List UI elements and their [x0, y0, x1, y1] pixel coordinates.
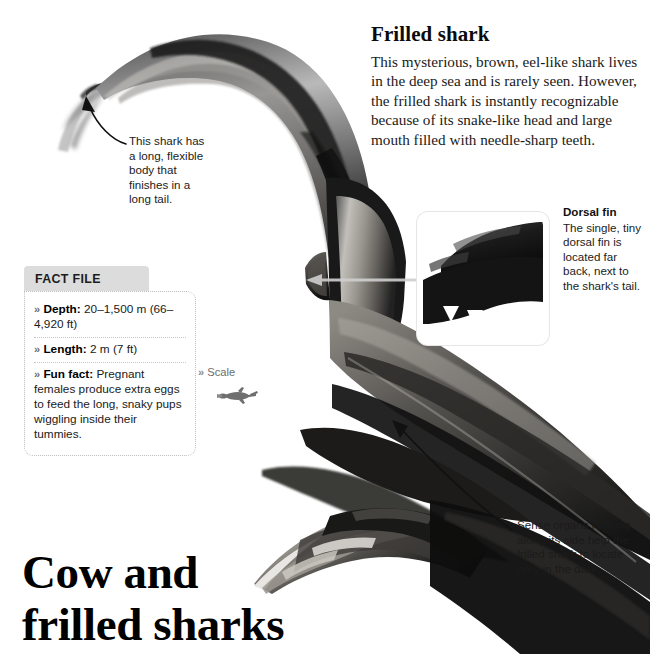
- fact-file-panel: FACT FILE » Depth: 20–1,500 m (66–4,920 …: [24, 266, 196, 456]
- intro-paragraph: This mysterious, brown, eel-like shark l…: [371, 52, 643, 149]
- fact-row-fun-fact-label: Fun fact:: [43, 367, 93, 381]
- fact-file-body: » Depth: 20–1,500 m (66–4,920 ft) » Leng…: [24, 291, 196, 456]
- fact-file-tab: FACT FILE: [24, 266, 149, 291]
- fact-row-depth: » Depth: 20–1,500 m (66–4,920 ft): [34, 298, 186, 337]
- scale-label: Scale: [207, 366, 235, 378]
- diver-icon: [214, 383, 258, 409]
- chevron-icon: »: [34, 303, 40, 315]
- fact-row-length: » Length: 2 m (7 ft): [34, 337, 186, 362]
- inset-image: [423, 218, 543, 339]
- fact-file-tab-label: FACT FILE: [35, 272, 101, 286]
- dorsal-fin-inset-photo: [417, 212, 549, 345]
- infographic-page: Frilled shark This mysterious, brown, ee…: [0, 0, 650, 654]
- fact-row-length-label: Length:: [43, 342, 86, 356]
- chevron-icon: »: [198, 366, 204, 378]
- section-title: Cow and frilled sharks: [22, 546, 492, 650]
- diver-silhouette-icon: [214, 383, 258, 413]
- chevron-icon: »: [34, 368, 40, 380]
- section-title-line1: Cow and: [22, 546, 198, 598]
- callout-sense-organs: Sense organs running along its side help…: [517, 518, 637, 576]
- callout-tail: This shark has a long, flexible body tha…: [129, 134, 213, 207]
- page-title: Frilled shark: [371, 22, 639, 47]
- fact-row-depth-label: Depth:: [43, 302, 80, 316]
- callout-dorsal-fin-text: The single, tiny dorsal fin is located f…: [563, 221, 641, 292]
- fact-row-fun-fact: » Fun fact: Pregnant females produce ext…: [34, 362, 186, 447]
- scale-indicator: » Scale: [198, 366, 260, 378]
- tail-callout-arrow: [82, 96, 126, 144]
- section-title-line2: frilled sharks: [22, 598, 492, 650]
- scale-label-row: » Scale: [198, 366, 260, 378]
- callout-dorsal-fin: Dorsal fin The single, tiny dorsal fin i…: [563, 205, 647, 294]
- fact-row-length-value: 2 m (7 ft): [87, 342, 137, 356]
- chevron-icon: »: [34, 343, 40, 355]
- callout-dorsal-fin-title: Dorsal fin: [563, 205, 647, 220]
- dorsal-fin-closeup: [423, 218, 543, 339]
